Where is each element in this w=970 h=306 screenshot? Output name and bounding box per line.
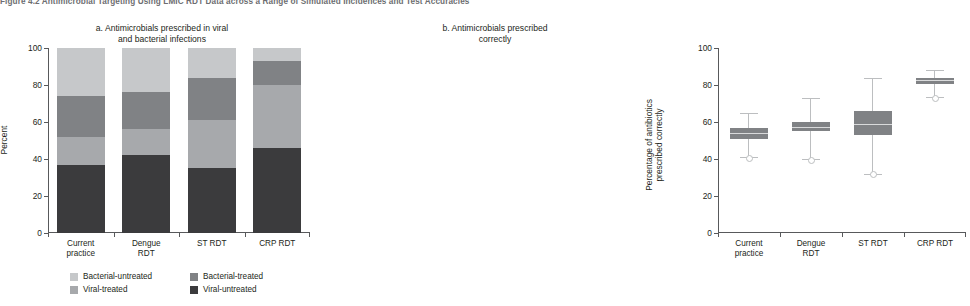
boxplot-upper-whisker [810,98,811,122]
boxplot-upper-whisker [748,113,749,129]
legend-swatch-viral_untreated [190,286,198,294]
boxplot-upper-whisker [872,78,873,111]
boxplot[interactable] [854,48,892,233]
panel-b-title-line2: correctly [360,34,630,45]
x-tick-label: DengueRDT [776,239,846,259]
x-tick-label: Currentpractice [46,239,116,259]
panel-b-title-line1: b. Antimicrobials prescribed [360,23,630,34]
y-tick-label: 100 [28,43,42,53]
bar-segment[interactable] [57,165,105,233]
x-tick-mark [179,233,180,237]
y-tick-label: 80 [33,80,42,90]
bar-segment[interactable] [57,48,105,96]
y-tick-label: 40 [703,154,712,164]
x-tick-label-line: RDT [111,249,181,259]
boxplot-box[interactable] [730,128,768,138]
y-tick-mark [44,159,48,160]
bar-segment[interactable] [122,48,170,92]
x-tick-label-line: CRP RDT [242,239,312,249]
bar-segment[interactable] [122,92,170,129]
x-tick-label-line: CRP RDT [900,239,970,249]
x-tick-mark [965,233,966,237]
y-tick-mark [44,48,48,49]
bar-segment[interactable] [253,148,301,233]
bar-segment[interactable] [188,168,236,233]
legend-swatch-bacterial_treated [190,273,198,281]
boxplot-box[interactable] [916,78,954,84]
y-tick-label: 20 [703,191,712,201]
y-tick-label: 100 [698,43,712,53]
y-tick-mark [44,122,48,123]
x-tick-label: Currentpractice [714,239,784,259]
bar-segment[interactable] [253,48,301,61]
bar-segment[interactable] [57,137,105,165]
bar-segment[interactable] [122,129,170,155]
boxplot[interactable] [792,48,830,233]
boxplot-upper-whisker [934,70,935,77]
bar-segment[interactable] [253,61,301,85]
legend-label: Viral-untreated [203,285,257,294]
legend-label: Bacterial-treated [203,272,263,281]
boxplot-upper-cap [740,113,758,114]
panel-a-y-axis [48,48,49,233]
y-tick-mark [44,196,48,197]
y-tick-label: 0 [707,228,712,238]
x-tick-label-line: Dengue [776,239,846,249]
x-tick-label: ST RDT [838,239,908,249]
x-tick-mark [904,233,905,237]
boxplot-box[interactable] [792,122,830,131]
legend-item[interactable]: Viral-treated [70,285,190,294]
boxplot-lower-whisker [810,131,811,159]
boxplot[interactable] [916,48,954,233]
x-tick-mark [780,233,781,237]
legend-item[interactable]: Bacterial-untreated [70,272,190,281]
bar-segment[interactable] [253,85,301,148]
boxplot[interactable] [730,48,768,233]
stacked-bar[interactable] [57,48,105,233]
x-tick-label-line: ST RDT [177,239,247,249]
boxplot-upper-cap [864,78,882,79]
boxplot-median-line [854,124,892,125]
y-tick-mark [714,196,718,197]
stacked-bar[interactable] [122,48,170,233]
legend-swatch-viral_treated [70,286,78,294]
stacked-bar[interactable] [188,48,236,233]
panel-b-plot-area: Percentage of antibiotics prescribed cor… [718,48,966,233]
bar-segment[interactable] [188,48,236,78]
bar-segment[interactable] [122,155,170,233]
boxplot-median-line [792,127,830,128]
panel-b-title: b. Antimicrobials prescribed correctly [360,23,630,45]
boxplot-upper-cap [802,98,820,99]
panel-b-y-axis-label-line2: prescribed correctly [654,108,664,181]
x-tick-label: CRP RDT [242,239,312,249]
x-tick-label-line: practice [46,249,116,259]
panel-b-y-axis-label: Percentage of antibiotics prescribed cor… [644,80,664,210]
stacked-bar[interactable] [253,48,301,233]
x-tick-label-line: Current [46,239,116,249]
boxplot-median-line [730,133,768,134]
boxplot-outlier-point [870,171,877,178]
x-tick-label: CRP RDT [900,239,970,249]
bar-segment[interactable] [57,96,105,137]
x-tick-mark [842,233,843,237]
legend-item[interactable]: Bacterial-treated [190,272,310,281]
panel-a-title-line2: and bacterial infections [12,34,312,45]
bar-segment[interactable] [188,78,236,121]
x-tick-label-line: practice [714,249,784,259]
boxplot-median-line [916,80,954,81]
panel-a-plot-area: Percent 020406080100 CurrentpracticeDeng… [48,48,310,233]
panel-b-y-axis-label-line1: Percentage of antibiotics [644,99,654,191]
panel-a-y-axis-label: Percent [0,95,9,185]
y-tick-mark [714,85,718,86]
chart-legend: Bacterial-untreatedBacterial-treatedVira… [70,272,310,294]
boxplot-box[interactable] [854,111,892,135]
x-tick-label-line: ST RDT [838,239,908,249]
legend-item[interactable]: Viral-untreated [190,285,310,294]
bar-segment[interactable] [188,120,236,168]
y-tick-label: 20 [33,191,42,201]
panel-a-stacked-bar-chart: a. Antimicrobials prescribed in viral an… [0,0,330,306]
y-tick-mark [44,85,48,86]
x-tick-label-line: RDT [776,249,846,259]
x-tick-label-line: Current [714,239,784,249]
panel-b-boxplot-chart: b. Antimicrobials prescribed correctly P… [330,0,645,306]
